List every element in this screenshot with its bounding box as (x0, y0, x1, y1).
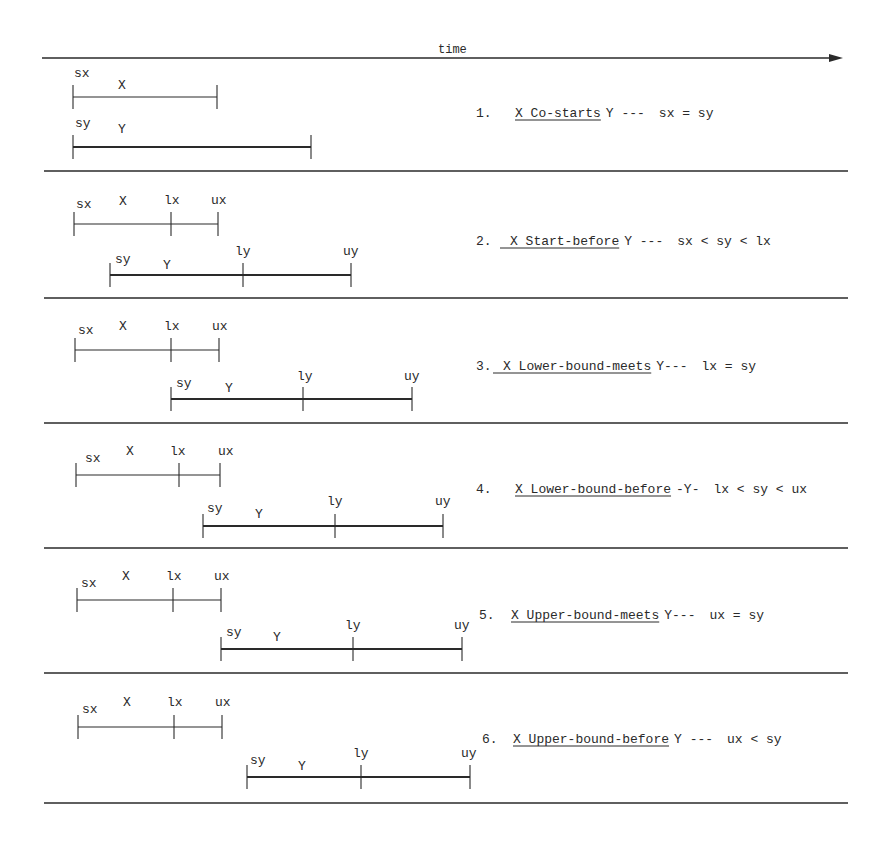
endpoint-label-sy: sy (115, 252, 131, 267)
endpoint-label-ux: ux (212, 319, 228, 334)
temporal-relations-diagram: time XsxYsy1.X Co-startsY ---sx = syXsxl… (0, 0, 888, 843)
relation-condition: ux = sy (709, 608, 764, 623)
endpoint-label-sx: sx (76, 197, 92, 212)
relation-trailing: Y --- (606, 106, 645, 121)
x-interval: Xsxlxux (75, 319, 228, 362)
x-interval-name: X (119, 194, 127, 209)
arrow-right-icon (829, 54, 843, 62)
relation-trailing: Y --- (624, 234, 663, 249)
endpoint-label-ly: ly (297, 369, 313, 384)
relation-index: 4. (476, 482, 492, 497)
y-interval: Ysy (73, 116, 311, 159)
relation-condition: ux < sy (727, 732, 782, 747)
relation-index: 2. (476, 234, 492, 249)
relation-statement: 6.X Upper-bound-beforeY ---ux < sy (482, 732, 782, 747)
relation-panel-6: XsxlxuxYsylyuy6.X Upper-bound-beforeY --… (78, 695, 782, 789)
x-interval-name: X (122, 569, 130, 584)
relation-name: X Start-before (510, 234, 619, 249)
y-interval-name: Y (298, 759, 306, 774)
relation-index: 3. (476, 359, 492, 374)
endpoint-label-sx: sx (85, 451, 101, 466)
relation-index: 5. (479, 608, 495, 623)
relation-statement: 5.X Upper-bound-meetsY---ux = sy (479, 608, 764, 623)
relation-name: X Lower-bound-before (515, 482, 671, 497)
relation-statement: 1.X Co-startsY ---sx = sy (476, 106, 714, 121)
relation-panel-5: XsxlxuxYsylyuy5.X Upper-bound-meetsY---u… (77, 569, 764, 661)
relation-condition: sx < sy < lx (677, 234, 771, 249)
endpoint-label-ux: ux (211, 193, 227, 208)
relation-statement: 3.X Lower-bound-meetsY---lx = sy (476, 359, 756, 374)
relation-statement: 4.X Lower-bound-before-Y-lx < sy < ux (476, 482, 807, 497)
x-interval-name: X (123, 695, 131, 710)
relation-name: X Lower-bound-meets (503, 359, 651, 374)
endpoint-label-lx: lx (166, 569, 182, 584)
endpoint-label-sx: sx (78, 323, 94, 338)
relation-name: X Upper-bound-before (513, 732, 669, 747)
relation-panel-2: XsxlxuxYsylyuy2.X Start-beforeY ---sx < … (74, 193, 771, 287)
y-interval: Ysylyuy (203, 494, 451, 538)
x-interval: Xsx (73, 66, 217, 109)
relation-panel-4: XsxlxuxYsylyuy4.X Lower-bound-before-Y-l… (76, 444, 807, 538)
endpoint-label-uy: uy (454, 618, 470, 633)
x-interval: Xsxlxux (74, 193, 227, 236)
endpoint-label-uy: uy (461, 746, 477, 761)
y-interval: Ysylyuy (247, 746, 477, 789)
endpoint-label-sy: sy (75, 116, 91, 131)
endpoint-label-sx: sx (74, 66, 90, 81)
y-interval-name: Y (255, 507, 263, 522)
endpoint-label-ux: ux (214, 569, 230, 584)
relation-trailing: Y--- (664, 608, 695, 623)
x-interval-name: X (119, 319, 127, 334)
endpoint-label-sy: sy (176, 376, 192, 391)
relation-index: 1. (476, 106, 492, 121)
relation-condition: lx < sy < ux (713, 482, 807, 497)
relation-index: 6. (482, 732, 498, 747)
relation-name: X Co-starts (515, 106, 601, 121)
relation-panel-3: XsxlxuxYsylyuy3.X Lower-bound-meetsY---l… (75, 319, 756, 411)
endpoint-label-sy: sy (226, 625, 242, 640)
endpoint-label-ly: ly (235, 244, 251, 259)
relation-panel-1: XsxYsy1.X Co-startsY ---sx = sy (73, 66, 714, 159)
x-interval: Xsxlxux (77, 569, 230, 612)
y-interval-name: Y (273, 630, 281, 645)
endpoint-label-lx: lx (167, 695, 183, 710)
time-axis-label: time (438, 43, 467, 57)
y-interval: Ysylyuy (171, 369, 420, 411)
y-interval: Ysylyuy (110, 244, 359, 287)
x-interval-name: X (126, 444, 134, 459)
x-interval: Xsxlxux (78, 695, 231, 739)
y-interval-name: Y (163, 258, 171, 273)
endpoint-label-ux: ux (218, 444, 234, 459)
y-interval: Ysylyuy (221, 618, 470, 661)
y-interval-name: Y (225, 381, 233, 396)
endpoint-label-ly: ly (345, 618, 361, 633)
endpoint-label-uy: uy (435, 494, 451, 509)
endpoint-label-sy: sy (207, 501, 223, 516)
relation-trailing: -Y- (676, 482, 699, 497)
relation-trailing: Y--- (656, 359, 687, 374)
endpoint-label-lx: lx (164, 319, 180, 334)
endpoint-label-uy: uy (404, 369, 420, 384)
endpoint-label-ly: ly (327, 494, 343, 509)
endpoint-label-ly: ly (353, 746, 369, 761)
x-interval: Xsxlxux (76, 444, 234, 487)
time-axis: time (42, 43, 843, 62)
relation-condition: sx = sy (659, 106, 714, 121)
relation-name: X Upper-bound-meets (511, 608, 659, 623)
relation-panels: XsxYsy1.X Co-startsY ---sx = syXsxlxuxYs… (73, 66, 807, 789)
endpoint-label-ux: ux (215, 695, 231, 710)
x-interval-name: X (118, 78, 126, 93)
relation-statement: 2.X Start-beforeY ---sx < sy < lx (476, 234, 771, 249)
relation-condition: lx = sy (701, 359, 756, 374)
relation-trailing: Y --- (674, 732, 713, 747)
endpoint-label-uy: uy (343, 244, 359, 259)
endpoint-label-sy: sy (250, 753, 266, 768)
y-interval-name: Y (118, 122, 126, 137)
endpoint-label-sx: sx (82, 702, 98, 717)
endpoint-label-lx: lx (164, 193, 180, 208)
endpoint-label-lx: lx (170, 444, 186, 459)
endpoint-label-sx: sx (81, 576, 97, 591)
